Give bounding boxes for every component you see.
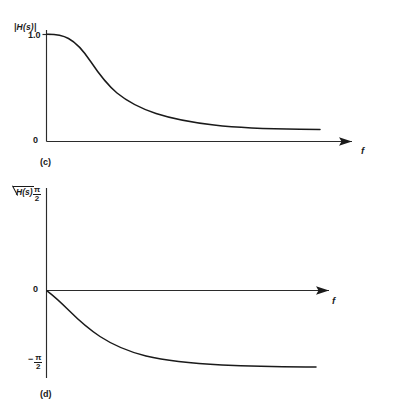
panel-d-curve <box>47 291 316 367</box>
panel-d-plot <box>47 188 330 378</box>
panel-c-curve <box>47 34 320 129</box>
panel-c-caption: (c) <box>40 158 51 167</box>
panel-c-x-axis-label: f <box>361 146 364 156</box>
panel-d-ytick-negative-pi-over-two: −π2 <box>28 352 42 371</box>
panel-c-ytick-zero: 0 <box>33 136 38 145</box>
minus-sign: − <box>28 355 33 364</box>
fraction-pi-over-two: π2 <box>33 186 41 204</box>
panel-d-y-axis-label: H(s) <box>13 188 33 197</box>
figure-canvas <box>0 0 404 411</box>
panel-c-ytick-one: 1.0 <box>28 31 41 40</box>
panel-c-plot <box>43 30 353 146</box>
negative-fraction: −π2 <box>28 354 42 372</box>
angle-of-icon: H(s) <box>13 188 33 197</box>
panel-d-ytick-pi-over-two: π2 <box>33 186 41 204</box>
panel-d-y-axis-label-text: H(s) <box>16 187 33 197</box>
figure-page: |H(s)| 1.0 0 f (c) H(s) π2 0 −π2 f (d) <box>0 0 404 411</box>
fraction-numerator: π <box>33 186 41 194</box>
panel-d-ytick-zero: 0 <box>33 285 38 294</box>
fraction-pi-over-two: π2 <box>34 354 42 372</box>
panel-d-caption: (d) <box>40 390 52 399</box>
fraction-denominator: 2 <box>34 362 42 371</box>
panel-d-x-axis-label: f <box>332 296 335 306</box>
fraction-denominator: 2 <box>33 194 41 203</box>
fraction-numerator: π <box>34 354 42 362</box>
